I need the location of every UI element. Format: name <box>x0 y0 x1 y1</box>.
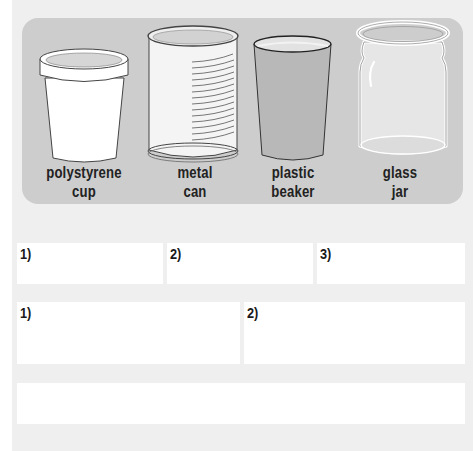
answer-box-row1-2[interactable]: 2) <box>167 243 313 284</box>
answer-number: 1) <box>20 245 31 262</box>
label-line1: glass <box>355 163 445 182</box>
label-line2: jar <box>355 182 445 201</box>
answer-number: 1) <box>20 304 31 321</box>
label-polystyrene-cup: polystyrene cup <box>39 163 129 201</box>
plastic-beaker-icon <box>254 36 331 160</box>
answer-number: 2) <box>247 304 258 321</box>
label-line1: polystyrene <box>39 163 129 182</box>
label-line2: beaker <box>248 182 338 201</box>
answer-box-row2-1[interactable]: 1) <box>17 302 240 364</box>
answer-box-row3[interactable] <box>17 383 465 424</box>
polystyrene-cup-icon <box>40 49 128 162</box>
label-metal-can: metal can <box>150 163 240 201</box>
label-line2: cup <box>39 182 129 201</box>
label-glass-jar: glass jar <box>355 163 445 201</box>
containers-panel: polystyrene cup metal can plastic beaker… <box>22 18 463 204</box>
answer-box-row1-3[interactable]: 3) <box>317 243 465 284</box>
label-line1: plastic <box>248 163 338 182</box>
answer-number: 3) <box>320 245 331 262</box>
answer-box-row1-1[interactable]: 1) <box>17 243 163 284</box>
label-line2: can <box>150 182 240 201</box>
label-line1: metal <box>150 163 240 182</box>
metal-can-icon <box>148 26 238 162</box>
answer-number: 2) <box>170 245 181 262</box>
answer-box-row2-2[interactable]: 2) <box>244 302 465 364</box>
glass-jar-icon <box>358 22 448 154</box>
label-plastic-beaker: plastic beaker <box>248 163 338 201</box>
